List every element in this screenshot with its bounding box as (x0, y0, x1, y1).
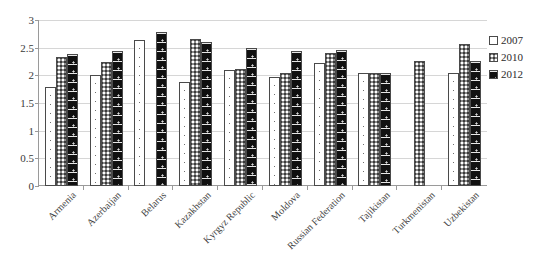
legend-swatch (489, 70, 498, 79)
y-axis-tick-label: 0.5 (0, 153, 34, 164)
bar-group (442, 20, 487, 186)
chart-legend: 200720102012 (489, 34, 539, 85)
bar-group (84, 20, 129, 186)
legend-swatch (489, 53, 498, 62)
bar (179, 82, 190, 186)
bar-chart: 00.511.522.53 ArmeniaAzerbaijanBelarusKa… (0, 0, 539, 279)
bar (156, 32, 167, 186)
y-axis-tick-label: 1.5 (0, 98, 34, 109)
legend-item: 2012 (489, 68, 539, 80)
bar (414, 61, 425, 186)
y-axis-tick-label: 2.5 (0, 42, 34, 53)
bar (369, 73, 380, 186)
bar (190, 39, 201, 186)
bar (112, 51, 123, 186)
x-axis-label: Turkmenistan (391, 190, 437, 236)
bar-group (173, 20, 218, 186)
x-axis-label: Uzbekistan (443, 190, 482, 229)
bar (459, 44, 470, 186)
bar (45, 87, 56, 186)
x-axis-label: Belarus (139, 190, 168, 219)
legend-label: 2010 (501, 52, 523, 63)
bar (470, 61, 481, 186)
bar-group (308, 20, 353, 186)
bar (380, 73, 391, 186)
bar-group (397, 20, 442, 186)
legend-swatch (489, 36, 498, 45)
bar (325, 53, 336, 186)
x-axis-label: Tajikistan (357, 190, 392, 225)
bar (280, 73, 291, 186)
legend-label: 2007 (501, 35, 523, 46)
bar (358, 73, 369, 186)
bar (134, 40, 145, 186)
bar-group (39, 20, 84, 186)
bar-group (218, 20, 263, 186)
bar (56, 57, 67, 186)
legend-label: 2012 (501, 69, 523, 80)
bar-group (263, 20, 308, 186)
bar-group (129, 20, 174, 186)
x-axis-label: Moldova (270, 190, 303, 223)
bar (235, 69, 246, 186)
bar (246, 48, 257, 186)
bar-groups (39, 20, 487, 186)
x-axis-label: Armenia (47, 190, 79, 222)
bar (314, 63, 325, 186)
bar (448, 73, 459, 186)
bar (90, 75, 101, 186)
legend-item: 2007 (489, 34, 539, 46)
bar (101, 62, 112, 186)
x-axis-label: Azerbaijan (85, 190, 123, 228)
bar-group (353, 20, 398, 186)
legend-item: 2010 (489, 51, 539, 63)
bar (201, 42, 212, 186)
y-axis-tick-label: 3 (0, 15, 34, 26)
y-axis-tick-label: 2 (0, 70, 34, 81)
y-axis-labels: 00.511.522.53 (0, 20, 34, 186)
y-axis-tick (35, 186, 39, 187)
x-axis-labels: ArmeniaAzerbaijanBelarusKazakhstanKyrgyz… (39, 190, 487, 279)
x-axis-label: Kazakhstan (173, 190, 213, 230)
bar (291, 51, 302, 186)
y-axis-tick-label: 1 (0, 125, 34, 136)
bar (269, 77, 280, 186)
bar (224, 70, 235, 186)
bar (336, 50, 347, 186)
y-axis-tick-label: 0 (0, 181, 34, 192)
bar (67, 54, 78, 186)
